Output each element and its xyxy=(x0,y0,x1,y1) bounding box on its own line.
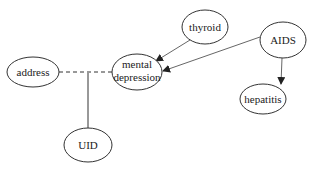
node-mental-depression: mental depression xyxy=(112,54,162,90)
node-mental-depression-label-line1: mental xyxy=(122,58,152,70)
node-hepatitis-label: hepatitis xyxy=(244,93,281,105)
node-aids: AIDS xyxy=(260,22,306,58)
diagram-canvas: address mental depression thyroid AIDS h… xyxy=(0,0,319,169)
node-address: address xyxy=(7,57,59,87)
edge-aids-hepatitis xyxy=(281,58,282,84)
node-address-label: address xyxy=(17,66,50,78)
node-uid: UID xyxy=(64,128,112,162)
edge-thyroid-mental-depression xyxy=(156,40,190,61)
node-thyroid: thyroid xyxy=(182,10,228,44)
node-aids-label: AIDS xyxy=(270,34,296,46)
node-thyroid-label: thyroid xyxy=(189,21,221,33)
node-uid-label: UID xyxy=(78,139,98,151)
node-hepatitis: hepatitis xyxy=(240,84,286,114)
node-mental-depression-label-line2: depression xyxy=(113,71,161,83)
